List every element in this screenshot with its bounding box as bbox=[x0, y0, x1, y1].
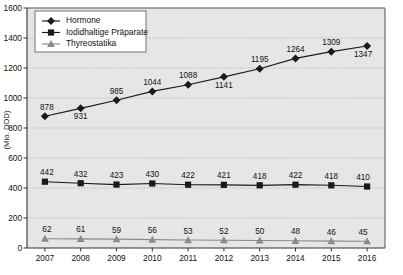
data-label: 985 bbox=[110, 87, 124, 96]
data-label: 442 bbox=[40, 168, 54, 177]
data-label: 410 bbox=[356, 173, 370, 182]
x-tick-label: 2010 bbox=[143, 253, 162, 263]
legend-label-2: Iodidhaltige Präparate bbox=[66, 27, 148, 37]
data-label: 62 bbox=[42, 225, 52, 234]
line-chart: 02004006008001000120014001600 2007200820… bbox=[0, 0, 403, 275]
data-point-marker bbox=[149, 180, 155, 186]
data-label: 418 bbox=[324, 172, 338, 181]
y-tick-label: 400 bbox=[8, 183, 22, 193]
data-label: 53 bbox=[184, 227, 194, 236]
data-label: 422 bbox=[181, 171, 195, 180]
data-label: 430 bbox=[145, 170, 159, 179]
data-point-marker bbox=[292, 182, 298, 188]
x-tick-label: 2013 bbox=[250, 253, 269, 263]
data-label: 422 bbox=[289, 171, 303, 180]
data-label: 56 bbox=[148, 226, 158, 235]
y-tick-label: 1400 bbox=[4, 33, 23, 43]
data-point-marker bbox=[221, 182, 227, 188]
x-tick-label: 2007 bbox=[36, 253, 55, 263]
legend-label-1: Hormone bbox=[66, 15, 101, 25]
data-point-marker bbox=[113, 181, 119, 187]
data-point-marker bbox=[185, 182, 191, 188]
legend-label-3: Thyreostatika bbox=[66, 38, 117, 48]
y-tick-label: 1000 bbox=[4, 93, 23, 103]
x-tick-label: 2015 bbox=[322, 253, 341, 263]
y-axis-title: (Mio. DDD) bbox=[2, 110, 11, 149]
y-tick-label: 1200 bbox=[4, 63, 23, 73]
y-tick-label: 200 bbox=[8, 213, 22, 223]
data-point-marker bbox=[42, 179, 48, 185]
data-point-marker bbox=[78, 180, 84, 186]
data-label: 931 bbox=[74, 112, 88, 121]
data-label: 878 bbox=[40, 103, 54, 112]
y-tick-label: 1600 bbox=[4, 3, 23, 13]
data-label: 1347 bbox=[354, 50, 373, 59]
x-tick-label: 2009 bbox=[107, 253, 126, 263]
data-point-marker bbox=[328, 182, 334, 188]
y-tick-label: 0 bbox=[17, 243, 22, 253]
chart-container: 02004006008001000120014001600 2007200820… bbox=[0, 0, 403, 275]
data-label: 1195 bbox=[251, 55, 269, 64]
legend: HormoneIodidhaltige PräparateThyreostati… bbox=[35, 11, 148, 52]
data-point-marker bbox=[257, 182, 263, 188]
data-label: 1088 bbox=[179, 71, 198, 80]
data-point-marker bbox=[48, 29, 54, 35]
data-label: 432 bbox=[74, 170, 88, 179]
y-tick-label: 600 bbox=[8, 153, 22, 163]
data-label: 1264 bbox=[286, 45, 305, 54]
x-tick-label: 2012 bbox=[215, 253, 234, 263]
data-label: 61 bbox=[76, 225, 86, 234]
data-label: 48 bbox=[291, 227, 301, 236]
x-tick-label: 2008 bbox=[71, 253, 90, 263]
data-label: 423 bbox=[110, 171, 124, 180]
data-label: 52 bbox=[219, 227, 229, 236]
data-label: 1141 bbox=[215, 81, 233, 90]
x-tick-label: 2014 bbox=[286, 253, 305, 263]
x-axis-ticks: 2007200820092010201120122013201420152016 bbox=[36, 248, 377, 263]
data-label: 45 bbox=[359, 228, 369, 237]
data-label: 46 bbox=[327, 228, 337, 237]
data-label: 418 bbox=[253, 172, 267, 181]
data-label: 1309 bbox=[322, 38, 341, 47]
data-label: 1044 bbox=[143, 78, 162, 87]
data-label: 59 bbox=[112, 226, 122, 235]
x-tick-label: 2011 bbox=[179, 253, 197, 263]
x-tick-label: 2016 bbox=[358, 253, 377, 263]
data-point-marker bbox=[364, 183, 370, 189]
data-label: 50 bbox=[255, 227, 265, 236]
data-label: 421 bbox=[217, 171, 231, 180]
